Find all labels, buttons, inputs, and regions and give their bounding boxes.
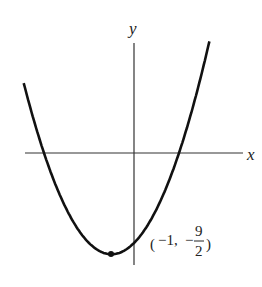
x-axis-label: x: [246, 145, 255, 164]
svg-text:(: (: [150, 236, 155, 253]
parabola-graph: x y ( −1, − 9 2 ): [0, 0, 262, 287]
vertex-point: [108, 251, 114, 257]
vertex-label: ( −1, − 9 2 ): [150, 223, 211, 259]
y-axis-label: y: [127, 19, 137, 38]
svg-text:−1,: −1,: [158, 232, 178, 248]
svg-text:2: 2: [195, 243, 203, 259]
parabola-curve: [24, 41, 210, 254]
svg-text:): ): [206, 236, 211, 253]
svg-text:−: −: [185, 232, 193, 248]
svg-text:9: 9: [195, 223, 203, 239]
